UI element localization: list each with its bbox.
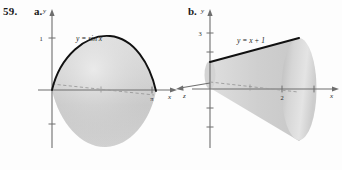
x-axis-label-b: x bbox=[329, 92, 334, 100]
x-tick-label-b-2: 2 bbox=[280, 94, 283, 101]
y-tick-label-b-3: 3 bbox=[198, 30, 201, 37]
x-axis-label-a: x bbox=[167, 93, 172, 101]
figure-a-canvas: y = sin x y x 1 π bbox=[0, 0, 180, 170]
equation-label-a: y = sin x bbox=[75, 34, 103, 43]
equation-label-b: y = x + 1 bbox=[236, 36, 265, 45]
figure-part-b: b. bbox=[176, 0, 342, 170]
solid-of-revolution-a bbox=[52, 36, 156, 147]
y-axis-label-b: y bbox=[200, 7, 205, 15]
depth-axis-label-b: z bbox=[182, 92, 186, 100]
figure-b-canvas: y = x + 1 y x z 3 2 bbox=[176, 0, 342, 170]
y-axis-label-a: y bbox=[42, 7, 47, 15]
y-tick-label-a-1: 1 bbox=[39, 35, 42, 42]
figure-page: 59. a. bbox=[0, 0, 342, 170]
figure-part-a: 59. a. bbox=[0, 0, 180, 170]
y-axis-a bbox=[49, 9, 56, 148]
